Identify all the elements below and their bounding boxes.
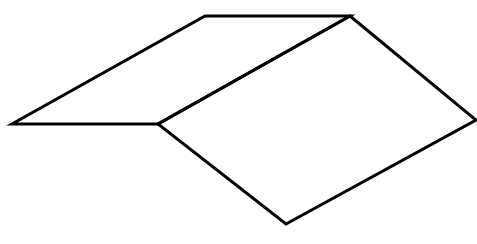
right-face xyxy=(158,16,476,224)
folded-planes-diagram xyxy=(0,0,477,244)
left-face xyxy=(12,16,350,124)
